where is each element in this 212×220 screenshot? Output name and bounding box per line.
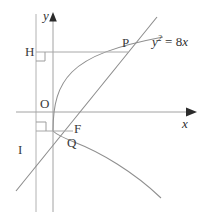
point-label-Q: Q bbox=[67, 136, 76, 149]
right-angle-mark-H bbox=[36, 52, 45, 61]
point-label-H: H bbox=[25, 45, 34, 58]
point-label-O: O bbox=[40, 97, 49, 110]
x-axis-label: x bbox=[182, 117, 188, 130]
parabola-figure: H P O F Q I y x y2 = 8x bbox=[0, 0, 212, 220]
equation-exponent: 2 bbox=[158, 34, 162, 43]
equation-relation: = bbox=[165, 34, 172, 49]
equation-rhs-var: x bbox=[182, 34, 188, 49]
point-label-P: P bbox=[122, 36, 129, 49]
parabola-upper-branch bbox=[53, 37, 163, 131]
point-label-I: I bbox=[18, 143, 22, 156]
figure-canvas bbox=[0, 0, 212, 220]
y-axis-arrow-icon bbox=[49, 12, 57, 22]
right-angle-mark-I bbox=[36, 122, 46, 131]
y-axis-label: y bbox=[43, 9, 49, 22]
focal-chord-line bbox=[16, 17, 157, 191]
parabola-equation-label: y2 = 8x bbox=[152, 35, 188, 48]
point-label-F: F bbox=[74, 122, 81, 135]
